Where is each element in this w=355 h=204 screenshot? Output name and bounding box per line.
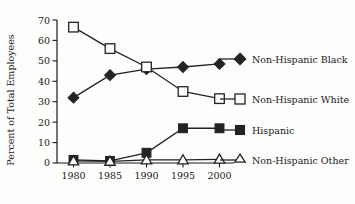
y-axis-title: Percent of Total Employees: [5, 34, 16, 166]
y-axis-tick-labels: 70 60 50 40 30 20 10 0: [38, 15, 50, 169]
chart-legend: Non-Hispanic Black Non-Hispanic White Hi…: [220, 53, 350, 165]
open-triangle-marker: [214, 154, 224, 163]
y-tick-30: 30: [38, 96, 50, 107]
y-tick-50: 50: [38, 55, 50, 66]
y-tick-20: 20: [38, 117, 50, 128]
legend-entry-hispanic: Hispanic: [220, 125, 294, 136]
y-tick-10: 10: [38, 137, 50, 148]
legend-entry-non-hispanic-other: Non-Hispanic Other: [220, 154, 349, 165]
series-non-hispanic-white: [69, 22, 225, 103]
data-series-layer: [68, 22, 225, 165]
legend-label-non-hispanic-white: Non-Hispanic White: [252, 94, 350, 105]
open-square-marker: [105, 44, 115, 54]
filled-diamond-icon: [234, 53, 246, 65]
open-triangle-icon: [235, 154, 245, 162]
y-tick-70: 70: [38, 15, 50, 26]
x-tick-1990: 1990: [134, 170, 158, 181]
filled-diamond-marker: [105, 70, 116, 81]
filled-square-marker: [179, 124, 188, 133]
y-tick-0: 0: [44, 157, 50, 168]
line-chart: Percent of Total Employees 70 60 50 40 3…: [0, 0, 355, 204]
y-tick-40: 40: [38, 76, 50, 87]
y-tick-60: 60: [38, 35, 50, 46]
open-square-marker: [178, 87, 188, 97]
legend-entry-non-hispanic-white: Non-Hispanic White: [220, 94, 350, 105]
filled-diamond-marker: [178, 62, 189, 73]
legend-label-non-hispanic-other: Non-Hispanic Other: [252, 155, 349, 166]
legend-label-hispanic: Hispanic: [252, 125, 294, 136]
y-axis: [53, 20, 58, 163]
open-square-marker: [69, 22, 79, 32]
filled-square-marker: [215, 124, 224, 133]
x-tick-1995: 1995: [171, 170, 195, 181]
x-axis-tick-labels: 1980 1985 1990 1995 2000: [61, 170, 231, 181]
x-tick-1980: 1980: [61, 170, 85, 181]
x-tick-2000: 2000: [207, 170, 231, 181]
x-tick-1985: 1985: [98, 170, 122, 181]
legend-entry-non-hispanic-black: Non-Hispanic Black: [220, 53, 348, 65]
filled-diamond-marker: [68, 92, 79, 103]
legend-label-non-hispanic-black: Non-Hispanic Black: [252, 54, 348, 65]
filled-diamond-marker: [214, 59, 225, 70]
open-square-icon: [235, 94, 245, 104]
filled-square-icon: [236, 126, 245, 135]
chart-container: Percent of Total Employees 70 60 50 40 3…: [0, 0, 355, 204]
open-square-marker: [142, 62, 152, 72]
